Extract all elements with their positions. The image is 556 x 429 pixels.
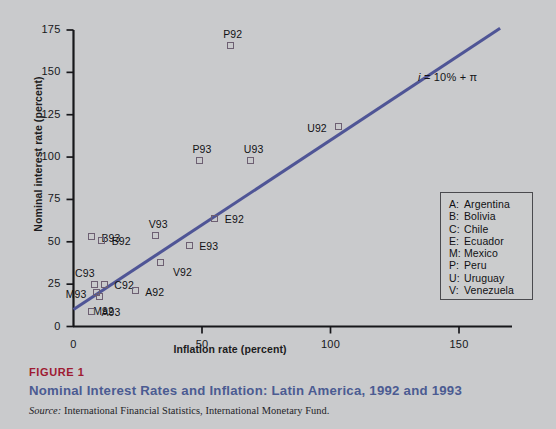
y-tick-label-175: 175 (21, 23, 61, 35)
legend-country-name: Argentina (464, 198, 510, 210)
legend-row-ecuador: E:Ecuador (449, 235, 532, 247)
data-point-v93 (152, 232, 159, 239)
data-point-p92 (227, 42, 234, 49)
data-point-label-v92: V92 (173, 266, 192, 278)
legend-key: M: (449, 247, 464, 259)
legend-key: E: (449, 235, 464, 247)
data-point-p93 (196, 157, 203, 164)
data-point-label-c93: C93 (75, 267, 95, 279)
data-point-label-a93: A93 (101, 306, 120, 318)
data-point-label-v93: V93 (149, 218, 168, 230)
data-point-a93 (88, 308, 95, 315)
legend-key: U: (449, 272, 464, 284)
legend-key: P: (449, 259, 464, 271)
legend-country-name: Bolivia (464, 210, 496, 222)
data-point-m92 (96, 293, 103, 300)
legend-key: A: (449, 198, 464, 210)
country-code-legend: A:ArgentinaB:BoliviaC:ChileE:EcuadorM:Me… (440, 192, 533, 300)
legend-row-chile: C:Chile (449, 223, 532, 235)
data-point-label-m93: M93 (66, 288, 87, 300)
data-point-label-b92: B92 (112, 235, 131, 247)
figure-number-label: FIGURE 1 (29, 366, 556, 378)
figure-source-note: Source: International Financial Statisti… (29, 405, 556, 416)
data-point-label-a92: A92 (145, 286, 164, 298)
legend-country-name: Peru (464, 259, 487, 271)
legend-country-name: Chile (464, 223, 488, 235)
figure-title: Nominal Interest Rates and Inflation: La… (29, 383, 556, 398)
legend-country-name: Uruguay (464, 272, 504, 284)
data-point-e93 (186, 242, 193, 249)
data-point-b92 (98, 237, 105, 244)
data-point-label-e93: E93 (199, 240, 218, 252)
source-citation: International Financial Statistics, Inte… (61, 405, 329, 416)
data-point-u93 (247, 157, 254, 164)
data-point-a92 (132, 287, 139, 294)
legend-country-name: Venezuela (464, 284, 514, 296)
legend-country-name: Ecuador (464, 235, 504, 247)
data-point-label-u92: U92 (307, 122, 327, 134)
y-tick-label-25: 25 (21, 277, 61, 289)
data-point-label-p93: P93 (192, 143, 211, 155)
data-point-label-p92: P92 (223, 28, 242, 40)
y-tick-label-0: 0 (21, 320, 61, 332)
legend-key: B: (449, 210, 464, 222)
data-point-label-u93: U93 (244, 143, 264, 155)
legend-row-peru: P:Peru (449, 259, 532, 271)
y-axis-title: Nominal interest rate (percent) (32, 44, 44, 264)
legend-row-mexico: M:Mexico (449, 247, 532, 259)
data-point-label-e92: E92 (225, 213, 244, 225)
source-prefix: Source: (29, 405, 61, 416)
data-point-c93 (91, 281, 98, 288)
legend-key: C: (449, 223, 464, 235)
legend-row-venezuela: V:Venezuela (449, 284, 532, 296)
annotation-expression: = 10% + π (421, 71, 478, 83)
figure-panel: 0255075100125150175 050100150 Nominal in… (0, 0, 556, 429)
data-point-v92 (157, 259, 164, 266)
data-point-c92 (101, 281, 108, 288)
figure-caption: FIGURE 1 Nominal Interest Rates and Infl… (0, 352, 556, 429)
legend-row-uruguay: U:Uruguay (449, 272, 532, 284)
legend-row-bolivia: B:Bolivia (449, 210, 532, 222)
reference-line-annotation: i = 10% + π (418, 71, 477, 83)
data-point-e92 (211, 215, 218, 222)
data-point-b93 (88, 233, 95, 240)
data-point-u92 (335, 123, 342, 130)
legend-country-name: Mexico (464, 247, 498, 259)
legend-row-argentina: A:Argentina (449, 198, 532, 210)
legend-key: V: (449, 284, 464, 296)
scatter-plot: 0255075100125150175 050100150 Nominal in… (0, 0, 556, 345)
